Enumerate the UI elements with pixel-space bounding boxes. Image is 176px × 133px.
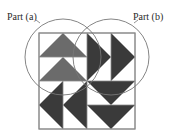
part-a-leader	[36, 20, 40, 23]
quilt-diagram	[0, 0, 176, 133]
part-b-leader	[134, 20, 138, 23]
